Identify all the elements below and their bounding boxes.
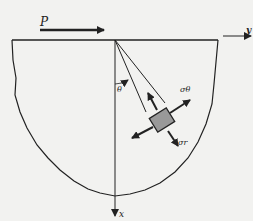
load-label: P bbox=[40, 16, 48, 28]
radial-line-1 bbox=[115, 40, 146, 112]
sigma-theta-label: σθ bbox=[180, 86, 190, 94]
y-axis-label: y bbox=[246, 26, 251, 35]
radial-line-2 bbox=[115, 40, 165, 103]
theta-label: θ bbox=[117, 86, 122, 94]
diagram-canvas: P y x θ σθ σr bbox=[0, 0, 253, 221]
sigma-r-label: σr bbox=[178, 139, 187, 147]
half-space-figure bbox=[0, 0, 253, 221]
sigma-r-arrow-down bbox=[168, 131, 178, 146]
sigma-r-arrow-up bbox=[148, 93, 157, 110]
x-axis-label: x bbox=[119, 210, 124, 219]
theta-arc bbox=[115, 80, 128, 84]
sigma-theta-arrow-left bbox=[132, 127, 153, 138]
sigma-theta-arrow-right bbox=[170, 100, 190, 113]
